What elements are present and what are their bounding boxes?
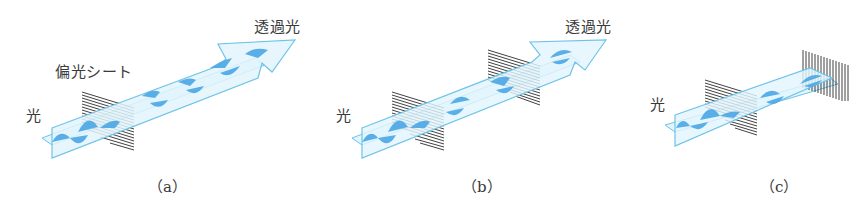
- polarizer-label: 偏光シート: [55, 60, 133, 81]
- transmitted-light-label: 透過光: [254, 15, 301, 36]
- panel-a: 光 偏光シート 透過光 （a）: [0, 0, 300, 214]
- panel-c: 光 （c）: [610, 0, 862, 214]
- transmitted-light-label: 透過光: [565, 15, 612, 36]
- panel-c-caption: （c）: [760, 175, 798, 196]
- panel-b-caption: （b）: [462, 175, 502, 196]
- incident-light-label: 光: [336, 104, 352, 125]
- beam-arrow: [362, 40, 606, 158]
- panel-b: 光 透過光 （b）: [300, 0, 610, 214]
- beam-arrow: [52, 40, 295, 158]
- incident-light-label: 光: [650, 93, 666, 114]
- panel-a-caption: （a）: [148, 175, 187, 196]
- incident-light-label: 光: [26, 104, 42, 125]
- panel-c-diagram: [610, 0, 862, 214]
